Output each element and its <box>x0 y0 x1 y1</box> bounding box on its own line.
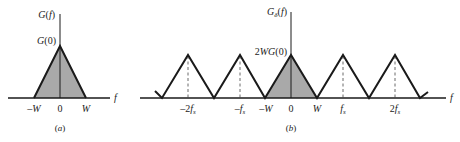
peak-label: G(0) <box>37 35 56 47</box>
tick-minus-w: –W <box>26 103 42 114</box>
panel-a: G(f) G(0) f –W 0 W (a) <box>8 9 118 133</box>
tick-zero: 0 <box>58 103 63 114</box>
tick-fs: fs <box>340 103 346 116</box>
y-axis-label: Gδ(f) <box>267 6 287 19</box>
tick-minus-fs: –fs <box>234 103 246 116</box>
tick-w: W <box>82 103 92 114</box>
panel-b: Gδ(f) 2WG(0) f –2fs –fs –W 0 W fs 2fs (b… <box>140 6 454 133</box>
tick-minus-w: –W <box>258 103 274 114</box>
tick-minus-2fs: –2fs <box>179 103 196 116</box>
peak-label: 2WG(0) <box>255 46 287 58</box>
tick-2fs: 2fs <box>390 103 401 116</box>
y-axis-label: G(f) <box>38 9 55 21</box>
caption-b: (b) <box>286 123 297 133</box>
sampling-spectrum-diagram: G(f) G(0) f –W 0 W (a) Gδ(f) 2WG(0) f –2… <box>0 0 460 142</box>
caption-a: (a) <box>55 123 66 133</box>
x-axis-label: f <box>450 92 454 103</box>
tick-zero: 0 <box>289 103 294 114</box>
tick-w: W <box>313 103 323 114</box>
x-axis-label: f <box>114 92 118 103</box>
